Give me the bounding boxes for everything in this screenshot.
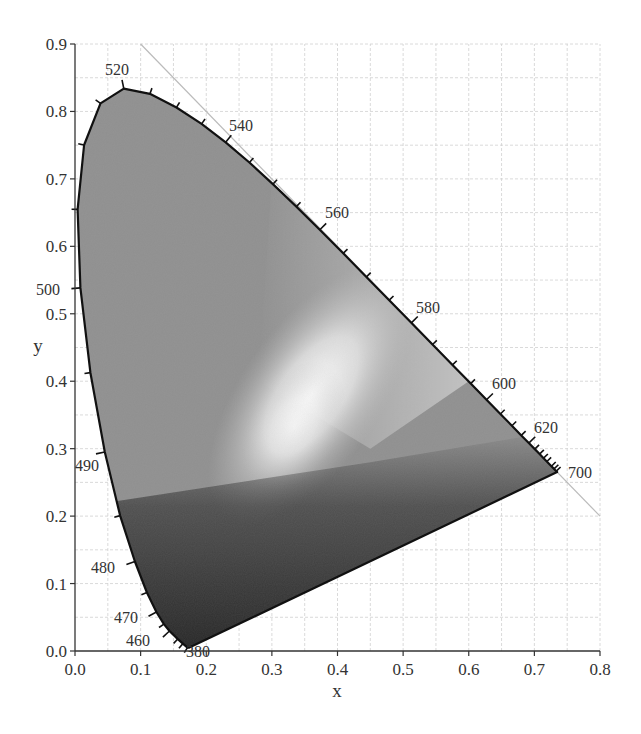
wavelength-tick xyxy=(163,631,170,637)
y-tick-labels: 0.00.10.20.30.40.50.60.70.80.9 xyxy=(46,35,68,661)
wavelength-tick xyxy=(179,644,183,649)
wavelength-tick xyxy=(177,102,180,107)
y-tick-label: 0.3 xyxy=(46,440,67,459)
x-tick-label: 0.3 xyxy=(261,660,282,679)
wavelength-tick xyxy=(512,422,516,426)
wavelength-tick xyxy=(343,249,347,253)
wavelength-tick xyxy=(551,462,555,466)
y-tick-label: 0.8 xyxy=(46,102,67,121)
y-tick-label: 0.1 xyxy=(46,575,67,594)
chromaticity-chart: 0.00.10.20.30.40.50.60.70.8 0.00.10.20.3… xyxy=(0,0,641,734)
wavelength-label-500: 500 xyxy=(36,281,60,298)
wavelength-tick xyxy=(96,100,101,103)
wavelength-label-480: 480 xyxy=(91,559,115,576)
wavelength-label-620: 620 xyxy=(534,419,558,436)
wavelength-tick xyxy=(547,457,551,461)
wavelength-tick xyxy=(389,296,393,300)
x-tick-label: 0.0 xyxy=(64,660,85,679)
wavelength-label-560: 560 xyxy=(325,204,349,221)
wavelength-tick xyxy=(320,223,326,229)
y-axis-title: y xyxy=(33,335,43,356)
y-tick-label: 0.4 xyxy=(46,372,68,391)
wavelength-tick xyxy=(411,317,417,323)
wavelength-label-460: 460 xyxy=(126,632,150,649)
wavelength-tick xyxy=(540,450,544,454)
wavelength-tick xyxy=(141,592,147,594)
wavelength-tick xyxy=(452,361,456,365)
x-tick-label: 0.1 xyxy=(130,660,151,679)
wavelength-tick xyxy=(150,88,152,94)
wavelength-tick xyxy=(486,393,492,399)
x-tick-label: 0.4 xyxy=(327,660,349,679)
y-tick-label: 0.7 xyxy=(46,170,68,189)
y-tick-label: 0.0 xyxy=(46,642,67,661)
y-tick-label: 0.2 xyxy=(46,507,67,526)
x-axis-title: x xyxy=(332,680,342,701)
wavelength-label-490: 490 xyxy=(75,457,99,474)
wavelength-label-540: 540 xyxy=(229,117,253,134)
x-tick-label: 0.6 xyxy=(458,660,479,679)
y-tick-label: 0.6 xyxy=(46,237,67,256)
x-tick-label: 0.7 xyxy=(524,660,546,679)
wavelength-tick xyxy=(78,144,84,145)
x-tick-label: 0.2 xyxy=(196,660,217,679)
wavelength-tick xyxy=(84,373,90,374)
wavelength-label-600: 600 xyxy=(492,375,516,392)
wavelength-tick xyxy=(226,135,232,142)
y-tick-label: 0.5 xyxy=(46,305,67,324)
wavelength-tick xyxy=(126,562,134,565)
wavelength-label-470: 470 xyxy=(114,609,138,626)
wavelength-label-520: 520 xyxy=(105,61,129,78)
wavelength-tick xyxy=(96,452,105,454)
wavelength-label-580: 580 xyxy=(416,299,440,316)
wavelength-tick xyxy=(554,465,558,469)
wavelength-tick xyxy=(521,431,525,435)
wavelength-tick xyxy=(500,410,504,414)
wavelength-tick xyxy=(159,624,164,627)
x-tick-label: 0.8 xyxy=(589,660,610,679)
wavelength-label-380: 380 xyxy=(186,643,210,660)
gamut-fill xyxy=(60,80,580,660)
wavelength-tick xyxy=(544,454,548,458)
x-tick-label: 0.5 xyxy=(393,660,414,679)
wavelength-tick xyxy=(556,467,560,471)
wavelength-tick xyxy=(122,80,124,89)
y-tick-label: 0.9 xyxy=(46,35,67,54)
x-tick-labels: 0.00.10.20.30.40.50.60.70.8 xyxy=(64,660,610,679)
wavelength-tick xyxy=(71,288,80,289)
wavelength-tick xyxy=(174,639,178,643)
wavelength-tick xyxy=(202,119,205,124)
wavelength-label-700: 700 xyxy=(568,464,592,481)
wavelength-tick xyxy=(149,612,157,616)
